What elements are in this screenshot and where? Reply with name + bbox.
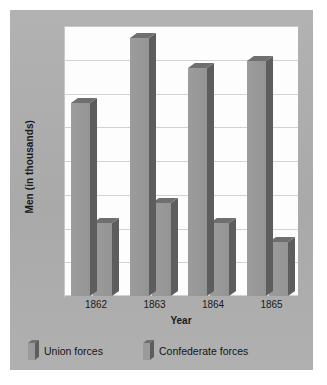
bar-1863-union-forces[interactable] <box>130 38 149 296</box>
x-tick-label-1864: 1864 <box>190 299 236 310</box>
y-axis-label: Men (in thousands) <box>24 120 40 213</box>
bar-face <box>247 61 266 296</box>
plot-area <box>64 26 298 296</box>
bar-face <box>71 103 90 296</box>
bar-1865-union-forces[interactable] <box>247 61 266 296</box>
bar-side <box>229 218 236 296</box>
chart-figure: Men (in thousands) 1862186318641865 Year… <box>0 0 327 385</box>
bar-swatch-icon <box>28 343 35 360</box>
bar-side <box>266 56 273 296</box>
legend-item-confederate-forces[interactable]: Confederate forces <box>143 340 248 362</box>
bar-swatch-icon <box>143 343 150 360</box>
legend-item-union-forces[interactable]: Union forces <box>28 340 103 362</box>
bar-side <box>288 237 295 296</box>
bar-side <box>90 98 97 296</box>
bar-side <box>112 218 119 296</box>
bar-side <box>171 198 178 296</box>
x-tick-label-1863: 1863 <box>132 299 178 310</box>
x-tick-label-1862: 1862 <box>73 299 119 310</box>
x-tick-label-1865: 1865 <box>249 299 295 310</box>
bar-face <box>130 38 149 296</box>
legend-swatch-face <box>28 343 35 360</box>
bar-side <box>149 33 156 296</box>
legend-label: Union forces <box>44 345 103 357</box>
x-axis-label: Year <box>64 315 298 326</box>
legend-label: Confederate forces <box>159 345 248 357</box>
bar-face <box>188 68 207 296</box>
legend-swatch-face <box>143 343 150 360</box>
bar-1864-union-forces[interactable] <box>188 68 207 296</box>
chart-legend: Union forcesConfederate forces <box>28 340 288 364</box>
gridline <box>64 26 298 27</box>
bar-1862-union-forces[interactable] <box>71 103 90 296</box>
bar-side <box>207 63 214 296</box>
